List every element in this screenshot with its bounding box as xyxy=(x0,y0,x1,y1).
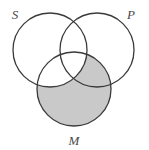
label-s: S xyxy=(12,7,19,22)
label-p: P xyxy=(126,7,135,22)
label-m: M xyxy=(68,133,81,148)
venn-diagram-figure: S P M xyxy=(0,0,149,150)
venn-diagram-canvas: S P M xyxy=(0,0,149,150)
